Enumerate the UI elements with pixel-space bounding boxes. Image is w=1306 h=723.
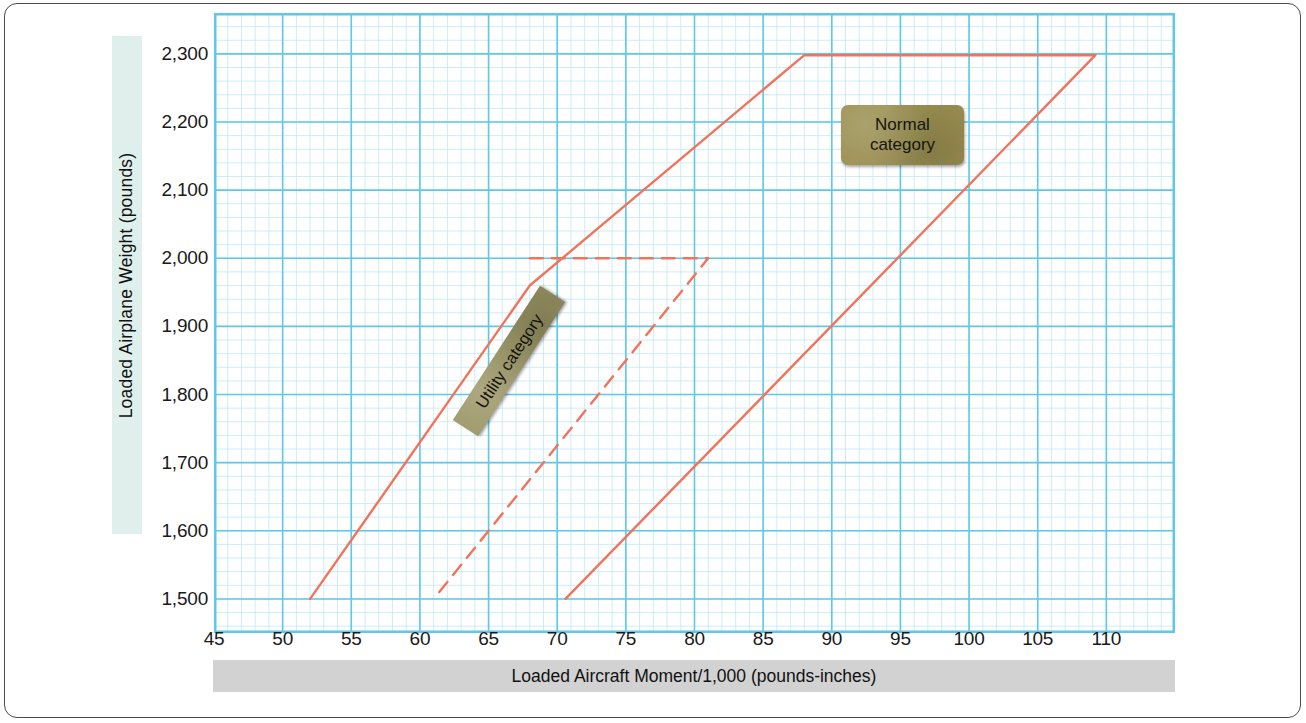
figure-page: Loaded Airplane Weight (pounds) 1,5001,6… <box>0 0 1306 723</box>
x-tick-label: 110 <box>1071 628 1141 650</box>
normal-category-label-text: Normal category <box>870 115 935 154</box>
x-tick-label: 45 <box>179 628 249 650</box>
y-tick-label: 2,100 <box>116 179 208 201</box>
x-tick-label: 105 <box>1003 628 1073 650</box>
normal-label-line1: Normal <box>875 115 930 134</box>
x-axis-title-text: Loaded Aircraft Moment/1,000 (pounds-inc… <box>512 666 877 687</box>
y-tick-label: 2,200 <box>116 111 208 133</box>
major-gridlines <box>214 13 1175 633</box>
x-tick-label: 75 <box>591 628 661 650</box>
x-tick-label: 80 <box>660 628 730 650</box>
x-axis-tick-labels: 4550556065707580859095100105110 <box>0 628 1306 658</box>
y-tick-label: 1,500 <box>116 588 208 610</box>
x-tick-label: 65 <box>454 628 524 650</box>
x-tick-label: 50 <box>248 628 318 650</box>
x-tick-label: 90 <box>797 628 867 650</box>
y-tick-label: 2,000 <box>116 247 208 269</box>
x-tick-label: 100 <box>934 628 1004 650</box>
y-tick-label: 1,900 <box>116 315 208 337</box>
normal-label-line2: category <box>870 135 935 154</box>
y-tick-label: 1,800 <box>116 384 208 406</box>
x-tick-label: 55 <box>316 628 386 650</box>
x-tick-label: 60 <box>385 628 455 650</box>
y-axis-tick-labels: 1,5001,6001,7001,8001,9002,0002,1002,200… <box>110 0 208 723</box>
x-tick-label: 70 <box>522 628 592 650</box>
plot-area <box>214 13 1175 633</box>
y-tick-label: 2,300 <box>116 43 208 65</box>
y-tick-label: 1,600 <box>116 520 208 542</box>
x-axis-title: Loaded Aircraft Moment/1,000 (pounds-inc… <box>213 660 1175 692</box>
envelope-chart-svg <box>214 13 1175 633</box>
y-tick-label: 1,700 <box>116 452 208 474</box>
normal-category-label: Normal category <box>841 105 964 165</box>
x-tick-label: 95 <box>865 628 935 650</box>
x-tick-label: 85 <box>728 628 798 650</box>
